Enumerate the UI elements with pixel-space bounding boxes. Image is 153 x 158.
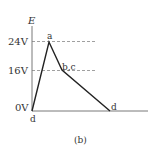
point-a-label: a [47,31,53,41]
tick-24v: 24V [8,36,29,47]
axis-e-label: E [27,15,36,26]
energy-diagram: E 24V 16V 0V a b,c d d (b) [0,0,153,158]
caption: (b) [74,135,87,145]
tick-0v: 0V [15,102,29,113]
tick-16v: 16V [8,65,29,76]
point-d-end-label: d [111,102,117,112]
point-d-origin-label: d [30,114,36,124]
energy-curve [32,42,110,111]
point-bc-label: b,c [62,62,76,72]
